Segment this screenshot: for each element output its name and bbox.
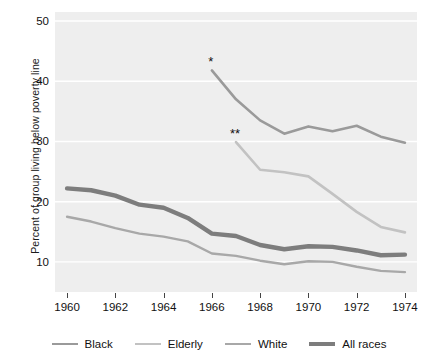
y-axis-title: Percent of group living below poverty li… (29, 26, 41, 286)
y-tick-label: 30 (23, 135, 49, 147)
plot-svg: *** (55, 12, 417, 292)
legend-label: All races (342, 338, 386, 350)
x-tick-mark (212, 293, 213, 298)
x-tick-label: 1962 (92, 301, 138, 313)
x-tick-label: 1974 (382, 301, 428, 313)
series-line-white (67, 217, 405, 272)
x-tick-label: 1964 (141, 301, 187, 313)
x-tick-mark (115, 293, 116, 298)
legend-label: Elderly (168, 338, 203, 350)
legend-line-swatch (135, 343, 161, 346)
x-tick-label: 1966 (189, 301, 235, 313)
y-tick-label: 10 (23, 256, 49, 268)
legend-label: White (258, 338, 287, 350)
x-tick-mark (405, 293, 406, 298)
footnote-marker: * (208, 54, 213, 69)
chart-legend: BlackElderlyWhiteAll races (0, 332, 438, 356)
x-tick-mark (164, 293, 165, 298)
footnote-marker: ** (230, 126, 240, 141)
legend-item-elderly[interactable]: Elderly (135, 338, 203, 350)
y-tick-label: 50 (23, 15, 49, 27)
legend-label: Black (85, 338, 113, 350)
x-tick-mark (67, 293, 68, 298)
legend-item-all-races[interactable]: All races (309, 338, 386, 350)
legend-item-white[interactable]: White (225, 338, 287, 350)
x-tick-mark (260, 293, 261, 298)
x-tick-mark (308, 293, 309, 298)
x-tick-label: 1970 (285, 301, 331, 313)
legend-line-swatch (225, 343, 251, 345)
legend-line-swatch (309, 342, 335, 346)
y-tick-label: 40 (23, 75, 49, 87)
x-tick-mark (357, 293, 358, 298)
x-tick-label: 1972 (334, 301, 380, 313)
series-line-elderly (236, 142, 405, 232)
x-tick-label: 1968 (237, 301, 283, 313)
legend-line-swatch (52, 343, 78, 346)
series-lines (67, 70, 405, 272)
poverty-line-chart: Percent of group living below poverty li… (0, 0, 438, 364)
plot-area: *** (55, 12, 417, 292)
series-line-all-races (67, 188, 405, 255)
y-tick-label: 20 (23, 196, 49, 208)
legend-item-black[interactable]: Black (52, 338, 113, 350)
x-tick-label: 1960 (44, 301, 90, 313)
